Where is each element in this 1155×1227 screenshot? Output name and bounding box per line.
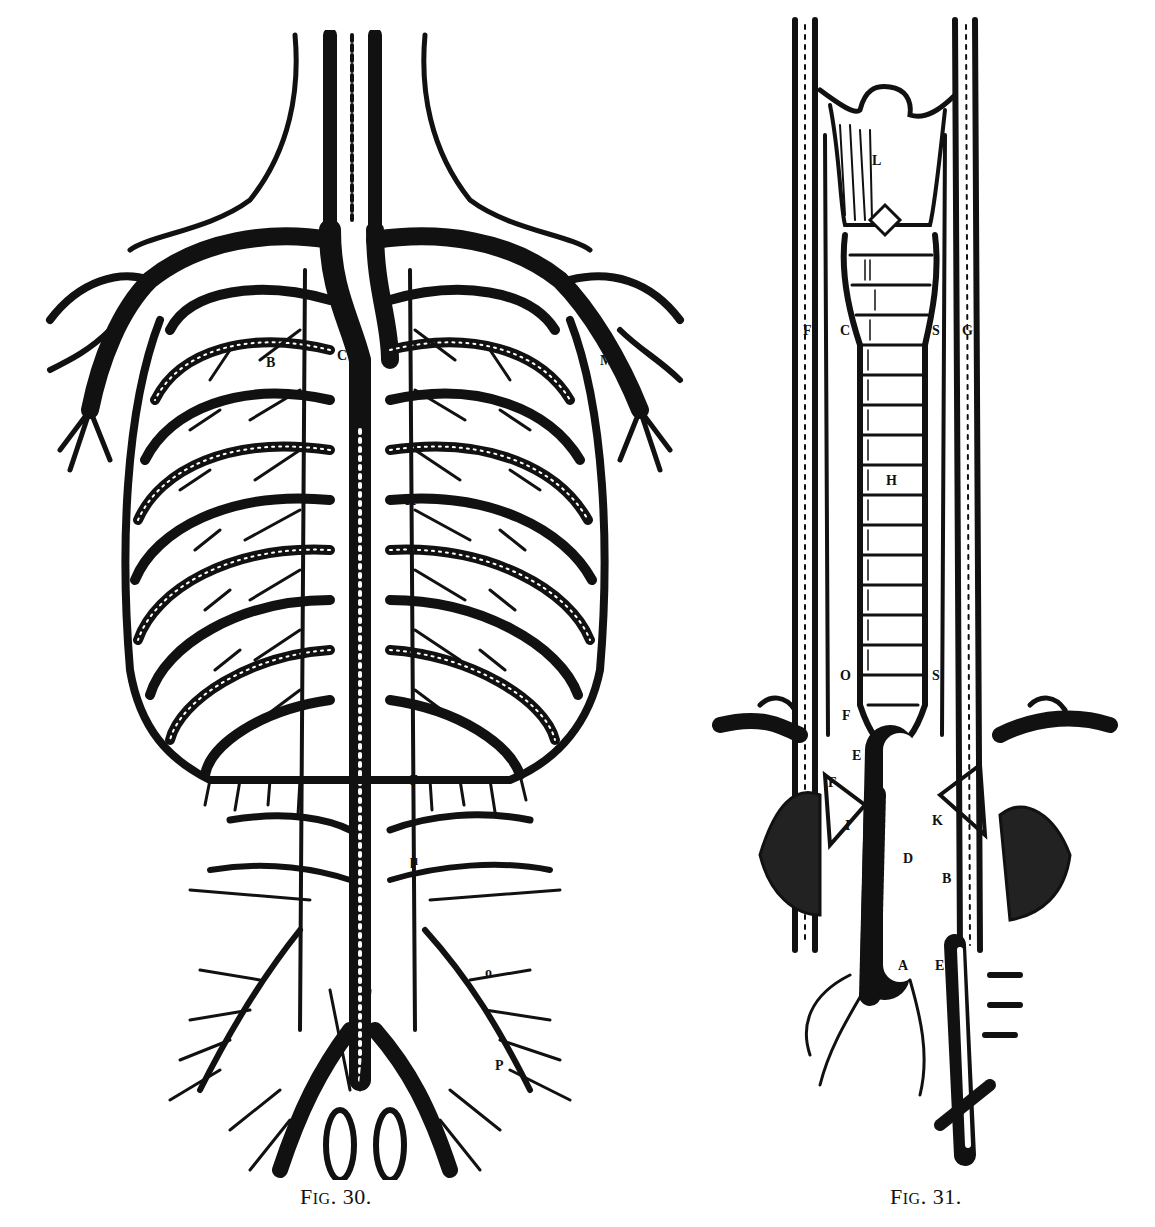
figure-30-caption: FIG. 30. (300, 1184, 372, 1210)
label-i: I (845, 818, 850, 833)
caption-number: . 31. (921, 1184, 962, 1209)
label-k: K (405, 493, 416, 508)
label-e2: E (935, 958, 944, 973)
label-v: V (340, 303, 350, 318)
caption-smallcaps: IG (903, 1190, 921, 1207)
label-mu2: μ (410, 853, 418, 868)
caption-prefix: F (300, 1184, 313, 1209)
label-c: C (840, 323, 850, 338)
label-m: M (600, 353, 613, 368)
caption-number: . 30. (331, 1184, 372, 1209)
caption-prefix: F (890, 1184, 903, 1209)
label-g: G (962, 323, 973, 338)
label-b: B (942, 871, 951, 886)
label-s2: S (932, 668, 940, 683)
label-mu: μ (410, 770, 418, 785)
label-s: S (932, 323, 940, 338)
figure-30-illustration: V C B K μ μ M o P (30, 30, 720, 1180)
venous-system-woodcut: V C B K μ μ M o P (30, 30, 720, 1180)
label-d: D (903, 851, 913, 866)
label-f3: F (828, 775, 837, 790)
label-f: F (803, 323, 812, 338)
label-h: H (886, 473, 897, 488)
label-k: K (932, 813, 943, 828)
label-c: C (337, 348, 347, 363)
label-p: P (495, 1058, 504, 1073)
label-o: O (840, 668, 851, 683)
figure-31-illustration: L F C S G H O S F E F I D K B A E (700, 15, 1130, 1175)
label-o: o (485, 965, 492, 980)
figure-31-caption: FIG. 31. (890, 1184, 962, 1210)
label-a: A (898, 958, 909, 973)
trachea-aorta-woodcut: L F C S G H O S F E F I D K B A E (700, 15, 1130, 1175)
label-b: B (266, 355, 275, 370)
label-l: L (872, 153, 881, 168)
caption-smallcaps: IG (313, 1190, 331, 1207)
label-f2: F (842, 708, 851, 723)
label-e: E (852, 748, 861, 763)
